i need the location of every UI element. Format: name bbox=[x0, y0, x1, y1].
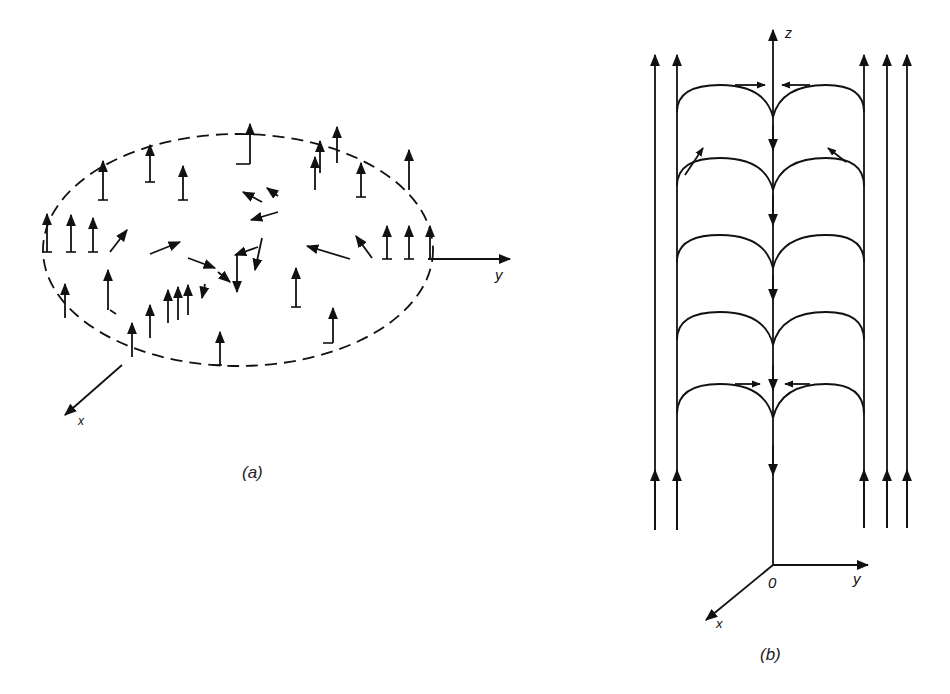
vertical-vectors bbox=[47, 124, 430, 365]
panel-a bbox=[42, 124, 510, 415]
figure-canvas: y x (a) bbox=[0, 0, 950, 694]
outer-streamlines-right bbox=[864, 55, 907, 528]
panel-b-x-label: x bbox=[715, 616, 723, 631]
x-axis bbox=[65, 365, 122, 415]
x-axis-b bbox=[706, 565, 773, 620]
panel-b-origin-label: 0 bbox=[768, 574, 777, 591]
vector-base-ticks bbox=[42, 164, 414, 365]
dashed-contour bbox=[43, 134, 433, 366]
arch-streamlines bbox=[677, 85, 864, 418]
panel-a-x-label: x bbox=[77, 414, 85, 428]
panel-b bbox=[655, 30, 907, 620]
panel-a-caption: (a) bbox=[242, 463, 263, 482]
panel-a-y-label: y bbox=[494, 266, 504, 283]
panel-b-z-label: z bbox=[784, 25, 792, 41]
panel-b-caption: (b) bbox=[760, 645, 781, 664]
tilted-vectors bbox=[110, 188, 372, 298]
panel-b-y-label: y bbox=[852, 570, 862, 587]
outer-streamlines-left bbox=[655, 55, 677, 530]
